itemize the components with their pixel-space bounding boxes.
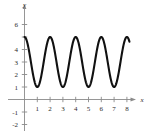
x-axis-arrow-icon: [131, 98, 137, 102]
cosine-curve: [25, 37, 130, 87]
x-tick-label-7: 7: [112, 105, 116, 113]
y-tick-label-2: 2: [15, 71, 19, 79]
chart-figure: 6 4 3 2 1 -1 -2 1 2 3 4 5 6 7 8 y x: [0, 0, 151, 137]
x-tick-label-3: 3: [61, 105, 65, 113]
y-tick-label-4: 4: [15, 46, 19, 54]
y-tick-label-1: 1: [15, 84, 19, 92]
y-tick-label-3: 3: [15, 59, 19, 67]
y-tick-label-minus-1: -1: [12, 109, 18, 117]
x-tick-label-6: 6: [100, 105, 104, 113]
x-tick-label-8: 8: [125, 105, 129, 113]
y-axis-label: y: [22, 1, 27, 9]
x-tick-label-2: 2: [48, 105, 52, 113]
x-tick-label-5: 5: [87, 105, 91, 113]
y-tick-label-minus-2: -2: [12, 121, 18, 129]
x-axis-label: x: [139, 96, 144, 104]
y-tick-label-6: 6: [15, 21, 19, 29]
x-tick-label-4: 4: [74, 105, 78, 113]
chart-canvas: 6 4 3 2 1 -1 -2 1 2 3 4 5 6 7 8 y x: [0, 0, 151, 137]
x-tick-label-1: 1: [36, 105, 40, 113]
